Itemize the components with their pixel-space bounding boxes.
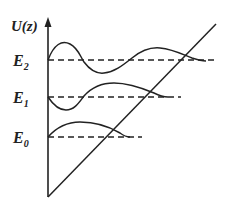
- y-axis-arrow-icon: [45, 17, 52, 27]
- y-axis-label: U(z): [11, 18, 38, 35]
- svg-text:E2: E2: [12, 52, 29, 72]
- potential-line: [48, 24, 216, 197]
- level-e0-label: E: [12, 129, 24, 146]
- level-e1-subscript: 1: [24, 98, 29, 109]
- diagram-canvas: U(z) E2 E1 E0: [0, 0, 228, 213]
- svg-text:E0: E0: [12, 129, 29, 149]
- svg-text:U(z): U(z): [11, 18, 38, 35]
- level-e0-subscript: 0: [24, 138, 29, 149]
- level-e2-label: E: [12, 52, 24, 69]
- level-e1-label: E: [12, 89, 24, 106]
- svg-text:E1: E1: [12, 89, 29, 109]
- level-e2-subscript: 2: [23, 61, 29, 72]
